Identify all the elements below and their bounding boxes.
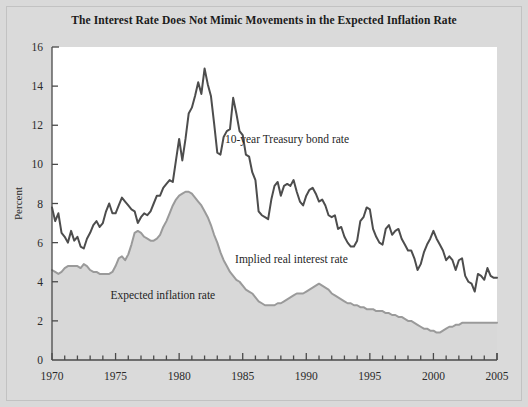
- y-axis-label: Percent: [12, 187, 24, 220]
- y-tick-label: 12: [32, 119, 44, 131]
- figure-container: The Interest Rate Does Not Mimic Movemen…: [0, 0, 528, 407]
- x-tick-label: 2005: [486, 370, 509, 382]
- x-tick-label: 1985: [231, 370, 254, 382]
- y-tick-label: 4: [37, 276, 43, 288]
- y-tick-label: 6: [37, 237, 43, 249]
- y-tick-label: 16: [32, 41, 44, 53]
- x-tick-label: 1995: [358, 370, 381, 382]
- y-tick-label: 14: [32, 80, 44, 92]
- chart-plot-area: 0246810121416197019751980198519901995200…: [0, 0, 528, 407]
- x-tick-label: 1990: [295, 370, 318, 382]
- y-tick-label: 0: [37, 354, 43, 366]
- annotation-implied-real-interest-rate: Implied real interest rate: [235, 253, 348, 266]
- y-tick-label: 8: [37, 198, 43, 210]
- y-tick-label: 10: [32, 158, 44, 170]
- annotation-10-year-treasury-bond-rate: 10-year Treasury bond rate: [225, 133, 349, 146]
- x-tick-label: 1970: [41, 370, 64, 382]
- y-axis-title: Percent: [12, 187, 24, 220]
- y-tick-label: 2: [37, 315, 43, 327]
- annotation-expected-inflation-rate: Expected inflation rate: [110, 289, 215, 302]
- x-tick-label: 1975: [104, 370, 127, 382]
- x-tick-label: 1980: [168, 370, 191, 382]
- line-chart: 0246810121416197019751980198519901995200…: [0, 0, 528, 407]
- x-tick-label: 2000: [422, 370, 445, 382]
